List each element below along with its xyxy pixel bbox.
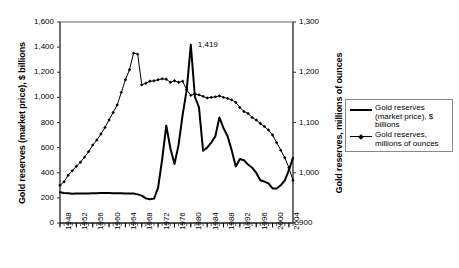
- x-tick-label: 1988: [227, 212, 236, 230]
- x-tick-label: 1952: [80, 212, 89, 230]
- series-marker-ounces: [222, 96, 225, 99]
- peak-annotation-label: 1,419: [198, 40, 218, 49]
- x-tick-label: 1968: [145, 212, 154, 230]
- x-tick-label: 2004: [292, 212, 301, 230]
- series-marker-ounces: [160, 77, 163, 80]
- x-tick-label: 1980: [194, 212, 203, 230]
- legend-item-dollars: Gold reserves (market price), $ billions: [350, 104, 433, 130]
- series-marker-ounces: [128, 68, 131, 71]
- series-marker-ounces: [173, 79, 176, 82]
- series-marker-ounces: [132, 51, 135, 54]
- series-marker-ounces: [152, 79, 155, 82]
- series-marker-ounces: [148, 80, 151, 83]
- series-marker-ounces: [201, 95, 204, 98]
- legend-label-ounces: Gold reserves, millions of ounces: [375, 131, 439, 148]
- chart-legend: Gold reserves (market price), $ billions…: [345, 99, 453, 152]
- y-tick-label-left: 200: [24, 193, 54, 202]
- legend-item-ounces: Gold reserves, millions of ounces: [350, 131, 439, 148]
- y-tick-label-left: 600: [24, 143, 54, 152]
- series-marker-ounces: [124, 78, 127, 81]
- series-marker-ounces: [218, 94, 221, 97]
- series-marker-ounces: [181, 80, 184, 83]
- series-marker-ounces: [177, 81, 180, 84]
- x-tick-label: 1976: [178, 212, 187, 230]
- y-tick-label-right: 1,200: [299, 67, 329, 76]
- y-axis-title-right: Gold reserves, millions of ounces: [334, 23, 344, 223]
- x-tick-label: 1992: [243, 212, 252, 230]
- x-tick-label: 1956: [96, 212, 105, 230]
- y-tick-label-left: 1,600: [24, 17, 54, 26]
- y-tick-label-left: 0: [24, 218, 54, 227]
- series-marker-ounces: [136, 52, 139, 55]
- series-marker-ounces: [205, 96, 208, 99]
- x-tick-label: 1948: [64, 212, 73, 230]
- y-tick-label-left: 800: [24, 118, 54, 127]
- series-marker-ounces: [226, 97, 229, 100]
- series-marker-ounces: [140, 83, 143, 86]
- legend-line-marker-icon: [350, 132, 372, 141]
- chart-figure: Gold reserves (market price), $ billions…: [0, 0, 459, 268]
- y-tick-label-right: 900: [299, 218, 329, 227]
- series-marker-ounces: [144, 82, 147, 85]
- series-marker-ounces: [210, 96, 213, 99]
- x-tick-label: 1964: [129, 212, 138, 230]
- y-tick-label-left: 1,000: [24, 92, 54, 101]
- x-tick-label: 1996: [260, 212, 269, 230]
- series-marker-ounces: [197, 93, 200, 96]
- x-tick-label: 1972: [162, 212, 171, 230]
- series-marker-ounces: [291, 179, 294, 182]
- y-tick-label-right: 1,100: [299, 118, 329, 127]
- series-line-ounces: [60, 53, 293, 185]
- x-tick-label: 2000: [276, 212, 285, 230]
- legend-label-dollars: Gold reserves (market price), $ billions: [375, 104, 433, 130]
- series-marker-ounces: [120, 91, 123, 94]
- legend-line-icon: [350, 105, 372, 114]
- series-marker-ounces: [156, 78, 159, 81]
- y-tick-label-left: 1,400: [24, 42, 54, 51]
- x-tick-label: 1984: [211, 212, 220, 230]
- series-marker-ounces: [214, 95, 217, 98]
- y-tick-label-left: 400: [24, 168, 54, 177]
- x-tick-label: 1960: [113, 212, 122, 230]
- y-tick-label-left: 1,200: [24, 67, 54, 76]
- y-tick-label-right: 1,000: [299, 168, 329, 177]
- y-tick-label-right: 1,300: [299, 17, 329, 26]
